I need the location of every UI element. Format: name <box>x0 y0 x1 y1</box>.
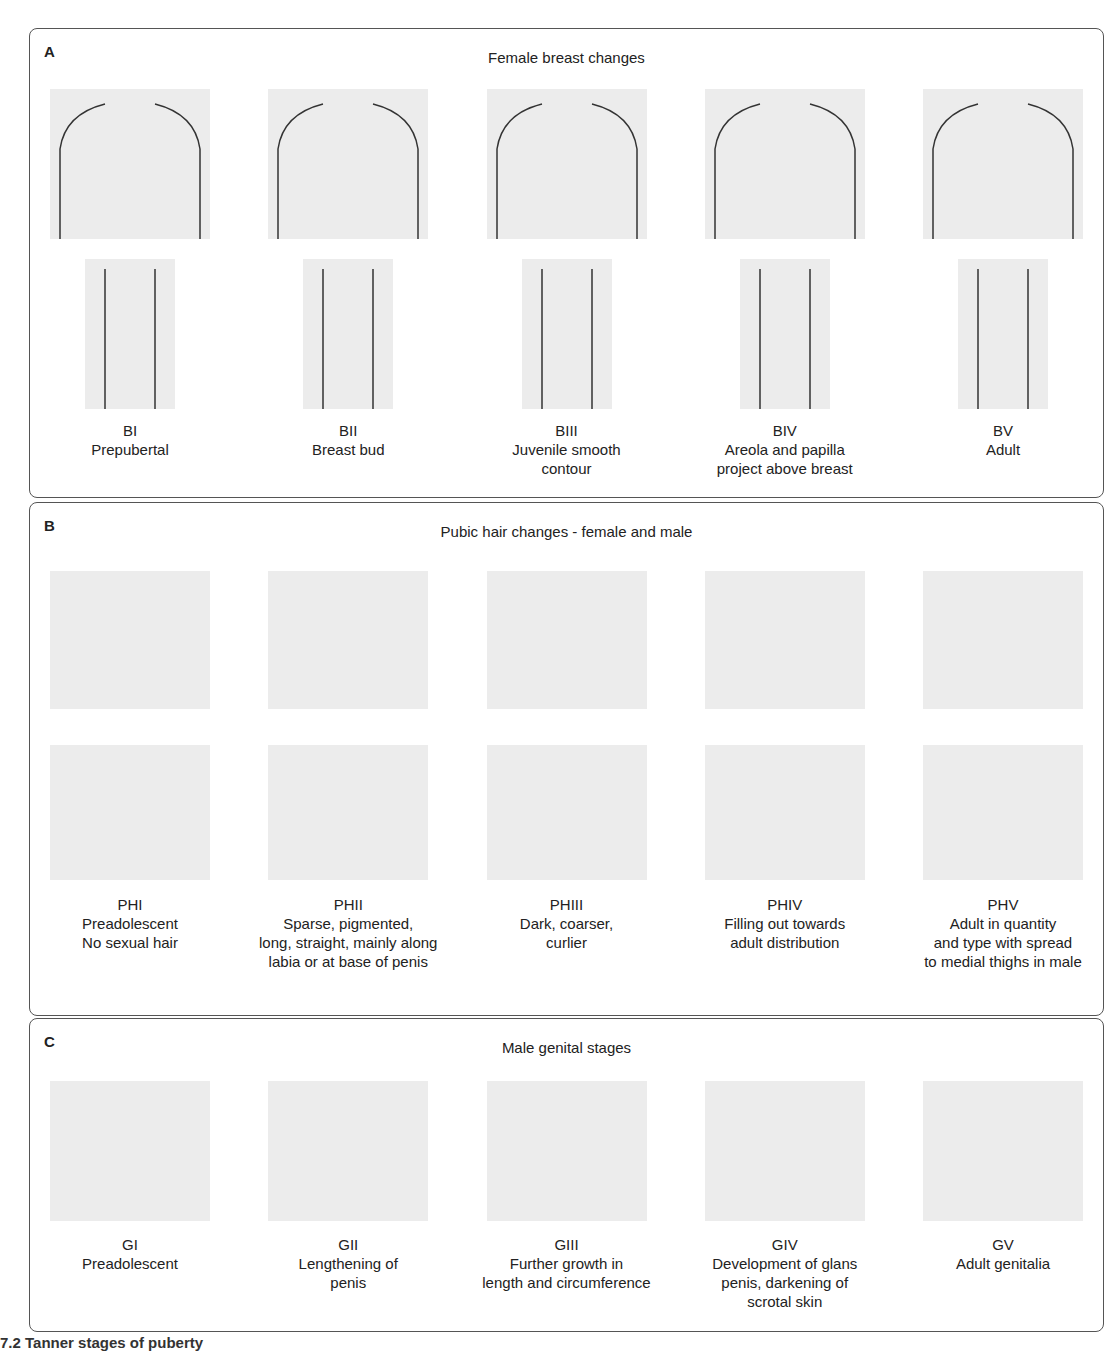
stage-code: PHIII <box>467 895 667 914</box>
stage-description: Adult genitalia <box>903 1254 1103 1273</box>
stage-label: BIPrepubertal <box>30 421 230 478</box>
illustration-row-front <box>50 89 1083 239</box>
stage-label: GIILengthening of penis <box>248 1235 448 1311</box>
illustration-phi-female <box>50 571 210 709</box>
stage-label: GVAdult genitalia <box>903 1235 1103 1311</box>
illustration-biv-side <box>740 259 830 409</box>
stage-label: PHIVFilling out towards adult distributi… <box>685 895 885 971</box>
stage-label: GIVDevelopment of glans penis, darkening… <box>685 1235 885 1311</box>
illustration-phi-male <box>50 745 210 880</box>
illustration-bi-side <box>85 259 175 409</box>
panel-pubic-hair-changes: B Pubic hair changes - female and male P… <box>29 502 1104 1016</box>
illustration-row-female <box>50 571 1083 709</box>
illustration-bv-front <box>923 89 1083 239</box>
stage-label: PHVAdult in quantity and type with sprea… <box>903 895 1103 971</box>
stage-description: Development of glans penis, darkening of… <box>685 1254 885 1311</box>
illustration-row-side <box>50 259 1083 409</box>
figure-caption: 7.2 Tanner stages of puberty <box>0 1334 203 1351</box>
stage-code: BII <box>248 421 448 440</box>
panel-title: Female breast changes <box>30 49 1103 66</box>
stage-code: PHI <box>30 895 230 914</box>
stage-code: GIV <box>685 1235 885 1254</box>
stage-label: PHIISparse, pigmented, long, straight, m… <box>248 895 448 971</box>
stage-description: Lengthening of penis <box>248 1254 448 1292</box>
stage-description: Adult in quantity and type with spread t… <box>903 914 1103 971</box>
stage-description: Breast bud <box>248 440 448 459</box>
illustration-row <box>50 1081 1083 1221</box>
illustration-phiv-male <box>705 745 865 880</box>
stage-description: Further growth in length and circumferen… <box>467 1254 667 1292</box>
stage-label: PHIPreadolescent No sexual hair <box>30 895 230 971</box>
illustration-gv <box>923 1081 1083 1221</box>
stage-description: Prepubertal <box>30 440 230 459</box>
illustration-biv-front <box>705 89 865 239</box>
stage-description: Preadolescent No sexual hair <box>30 914 230 952</box>
stage-label: BVAdult <box>903 421 1103 478</box>
stage-labels: BIPrepubertal BIIBreast bud BIIIJuvenile… <box>50 421 1083 478</box>
stage-code: GI <box>30 1235 230 1254</box>
stage-description: Filling out towards adult distribution <box>685 914 885 952</box>
illustration-phiv-female <box>705 571 865 709</box>
stage-label: BIIIJuvenile smooth contour <box>467 421 667 478</box>
stage-labels: PHIPreadolescent No sexual hair PHIISpar… <box>50 895 1083 971</box>
stage-description: Sparse, pigmented, long, straight, mainl… <box>248 914 448 971</box>
stage-code: GIII <box>467 1235 667 1254</box>
stage-code: BV <box>903 421 1103 440</box>
stage-code: BI <box>30 421 230 440</box>
stage-code: BIV <box>685 421 885 440</box>
stage-description: Dark, coarser, curlier <box>467 914 667 952</box>
illustration-biii-front <box>487 89 647 239</box>
stage-code: BIII <box>467 421 667 440</box>
stage-code: PHV <box>903 895 1103 914</box>
stage-description: Areola and papilla project above breast <box>685 440 885 478</box>
stage-label: GIIIFurther growth in length and circumf… <box>467 1235 667 1311</box>
illustration-bv-side <box>958 259 1048 409</box>
illustration-gi <box>50 1081 210 1221</box>
illustration-phiii-female <box>487 571 647 709</box>
illustration-bi-front <box>50 89 210 239</box>
stage-code: GII <box>248 1235 448 1254</box>
illustration-row-male <box>50 745 1083 880</box>
stage-labels: GIPreadolescent GIILengthening of penis … <box>50 1235 1083 1311</box>
illustration-bii-side <box>303 259 393 409</box>
illustration-biii-side <box>522 259 612 409</box>
stage-description: Juvenile smooth contour <box>467 440 667 478</box>
stage-description: Adult <box>903 440 1103 459</box>
stage-code: GV <box>903 1235 1103 1254</box>
stage-label: BIIBreast bud <box>248 421 448 478</box>
illustration-bii-front <box>268 89 428 239</box>
stage-label: GIPreadolescent <box>30 1235 230 1311</box>
panel-male-genital-stages: C Male genital stages GIPreadolescent GI… <box>29 1018 1104 1332</box>
illustration-phii-female <box>268 571 428 709</box>
illustration-phv-female <box>923 571 1083 709</box>
stage-description: Preadolescent <box>30 1254 230 1273</box>
illustration-phii-male <box>268 745 428 880</box>
stage-label: BIVAreola and papilla project above brea… <box>685 421 885 478</box>
stage-code: PHII <box>248 895 448 914</box>
illustration-giii <box>487 1081 647 1221</box>
stage-label: PHIIIDark, coarser, curlier <box>467 895 667 971</box>
illustration-giv <box>705 1081 865 1221</box>
panel-female-breast-changes: A Female breast changes BIPrepubertal BI… <box>29 28 1104 498</box>
panel-title: Pubic hair changes - female and male <box>30 523 1103 540</box>
illustration-phiii-male <box>487 745 647 880</box>
illustration-phv-male <box>923 745 1083 880</box>
stage-code: PHIV <box>685 895 885 914</box>
illustration-gii <box>268 1081 428 1221</box>
panel-title: Male genital stages <box>30 1039 1103 1056</box>
